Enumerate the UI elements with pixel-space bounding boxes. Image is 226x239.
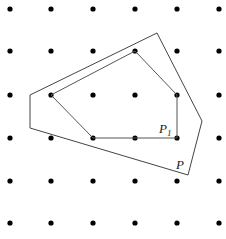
lattice-dot — [132, 92, 137, 97]
lattice-dot — [48, 178, 53, 183]
lattice-dot — [7, 48, 12, 53]
lattice-dot — [174, 6, 179, 11]
lattice-dot — [132, 178, 137, 183]
lattice-dot — [7, 135, 12, 140]
lattice-dot — [90, 220, 95, 225]
lattice-dot — [216, 220, 221, 225]
lattice-dot — [216, 135, 221, 140]
lattice-dot — [48, 135, 53, 140]
lattice-dot — [90, 92, 95, 97]
lattice-polygon-diagram: P P1 — [0, 0, 226, 239]
lattice-dot — [7, 6, 12, 11]
lattice-dot — [7, 92, 12, 97]
lattice-dot — [90, 6, 95, 11]
lattice-dot — [132, 220, 137, 225]
lattice-dot — [48, 220, 53, 225]
lattice-dot — [174, 220, 179, 225]
lattice-dot — [90, 178, 95, 183]
outer-polygon-p — [30, 33, 202, 175]
lattice-dot — [216, 48, 221, 53]
label-p: P — [175, 157, 184, 172]
lattice-dot — [48, 48, 53, 53]
lattice-dot — [7, 178, 12, 183]
lattice-dot — [7, 220, 12, 225]
lattice-dot — [216, 6, 221, 11]
lattice-dot — [90, 48, 95, 53]
lattice-dot — [216, 178, 221, 183]
lattice-dot — [216, 92, 221, 97]
lattice-dot — [174, 178, 179, 183]
label-p1: P1 — [158, 121, 171, 138]
lattice-dot — [174, 48, 179, 53]
lattice-dots — [7, 6, 221, 225]
lattice-dot — [132, 6, 137, 11]
lattice-dot — [48, 6, 53, 11]
